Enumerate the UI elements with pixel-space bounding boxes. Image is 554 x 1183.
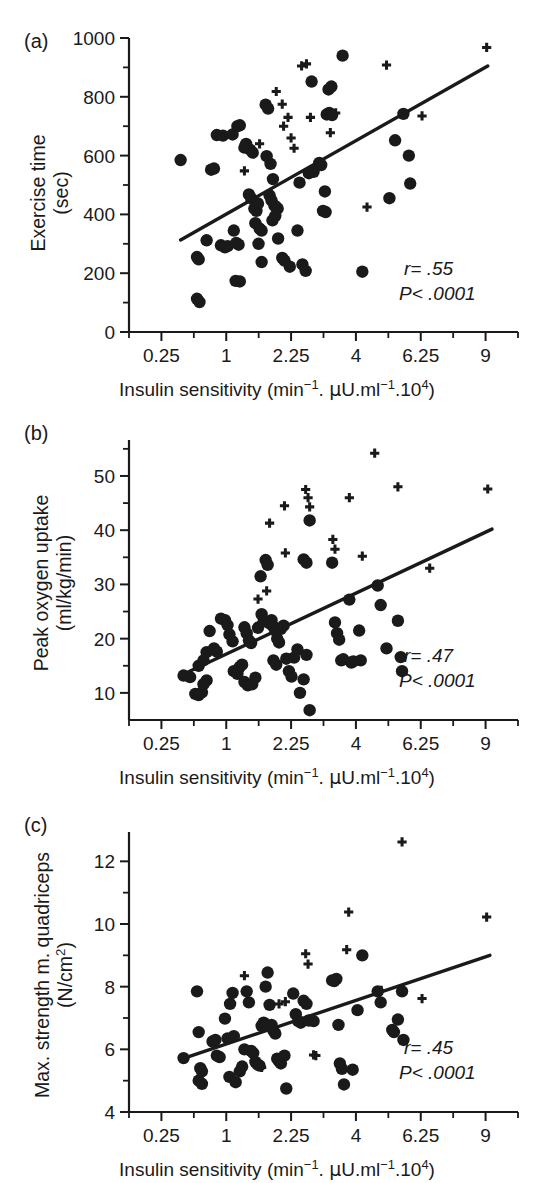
data-point-plus: [283, 113, 292, 122]
data-point-plus: [286, 133, 295, 142]
data-point-circle: [192, 253, 204, 265]
y-tick-label: 4: [104, 1102, 115, 1123]
data-point-circle: [272, 232, 284, 244]
data-point-plus: [305, 502, 314, 511]
data-point-circle: [351, 1004, 363, 1016]
series-plus-markers: [253, 449, 492, 604]
data-point-circle: [338, 1078, 350, 1090]
data-point-circle: [305, 75, 317, 87]
x-tick-label: 4: [351, 733, 362, 754]
x-tick-label: 1: [221, 733, 232, 754]
panel-c: (c) Max. strength m. quadriceps (N/cm2) …: [0, 792, 554, 1183]
panel-b-p-stat: P< .0001: [399, 670, 476, 692]
data-point-circle: [300, 998, 312, 1010]
panel-b-plot: 0.2512.2546.2591020304050: [0, 400, 554, 792]
data-point-plus: [265, 519, 274, 528]
y-tick-label: 40: [94, 520, 115, 541]
data-point-circle: [319, 185, 331, 197]
data-point-circle: [236, 1060, 248, 1072]
data-point-plus: [289, 144, 298, 153]
data-point-circle: [234, 275, 246, 287]
data-point-circle: [374, 599, 386, 611]
data-point-circle: [346, 1064, 358, 1076]
data-point-circle: [261, 966, 273, 978]
data-point-circle: [193, 296, 205, 308]
y-tick-label: 30: [94, 574, 115, 595]
series-circles: [177, 514, 408, 716]
panel-c-r-stat: r= .45: [404, 1037, 453, 1059]
data-point-plus: [303, 960, 312, 969]
data-point-circle: [247, 146, 259, 158]
data-point-plus: [262, 586, 271, 595]
data-point-plus: [483, 484, 492, 493]
data-point-circle: [336, 1063, 348, 1075]
panel-a-plot: 0.2512.2546.25902004006008001000: [0, 0, 554, 400]
x-tick-label: 6.25: [402, 1125, 439, 1146]
x-tick-label: 9: [480, 733, 491, 754]
data-point-circle: [228, 224, 240, 236]
data-point-circle: [397, 108, 409, 120]
data-point-circle: [371, 579, 383, 591]
y-tick-label: 200: [83, 263, 115, 284]
data-point-circle: [263, 999, 275, 1011]
panel-b: (b) Peak oxygen uptake (ml/kg/min) 0.251…: [0, 400, 554, 792]
x-tick-label: 6.25: [402, 733, 439, 754]
data-point-circle: [264, 158, 276, 170]
data-point-circle: [259, 980, 271, 992]
data-point-plus: [482, 913, 491, 922]
data-point-plus: [326, 128, 335, 137]
data-point-plus: [358, 552, 367, 561]
panel-c-p-stat: P< .0001: [399, 1062, 476, 1084]
data-point-circle: [240, 985, 252, 997]
y-tick-label: 8: [104, 977, 115, 998]
data-point-circle: [287, 987, 299, 999]
data-point-circle: [325, 80, 337, 92]
y-tick-label: 600: [83, 146, 115, 167]
data-point-circle: [392, 1013, 404, 1025]
data-point-circle: [356, 266, 368, 278]
data-point-circle: [177, 1052, 189, 1064]
data-point-circle: [211, 645, 223, 657]
data-point-circle: [299, 265, 311, 277]
data-point-circle: [329, 616, 341, 628]
data-point-circle: [192, 1026, 204, 1038]
y-tick-label: 20: [94, 629, 115, 650]
y-tick-label: 10: [94, 683, 115, 704]
panel-a-xlabel: Insulin sensitivity (min−1. μU.ml−1.104): [0, 378, 554, 401]
data-point-circle: [209, 1034, 221, 1046]
data-point-circle: [208, 162, 220, 174]
y-tick-label: 12: [94, 851, 115, 872]
data-point-plus: [306, 113, 315, 122]
data-point-plus: [482, 43, 491, 52]
data-point-circle: [333, 634, 345, 646]
data-point-circle: [253, 1059, 265, 1071]
x-tick-label: 0.25: [143, 345, 180, 366]
data-point-plus: [370, 449, 379, 458]
data-point-circle: [404, 177, 416, 189]
data-point-circle: [252, 197, 264, 209]
data-point-circle: [191, 985, 203, 997]
data-point-circle: [269, 1027, 281, 1039]
data-point-plus: [342, 945, 351, 954]
data-point-circle: [255, 224, 267, 236]
panel-a-p-stat: P< .0001: [399, 283, 476, 305]
data-point-circle: [315, 159, 327, 171]
x-tick-label: 9: [480, 1125, 491, 1146]
y-tick-label: 50: [94, 466, 115, 487]
data-point-plus: [417, 111, 426, 120]
data-point-circle: [262, 102, 274, 114]
data-point-circle: [254, 570, 266, 582]
panel-a: (a) Exercise time (sec) 0.2512.2546.2590…: [0, 0, 554, 400]
data-point-circle: [389, 134, 401, 146]
series-circles: [177, 949, 409, 1095]
data-point-circle: [266, 214, 278, 226]
data-point-circle: [326, 557, 338, 569]
data-point-plus: [345, 493, 354, 502]
data-point-plus: [425, 564, 434, 573]
y-tick-label: 10: [94, 914, 115, 935]
data-point-circle: [374, 996, 386, 1008]
x-tick-label: 6.25: [402, 345, 439, 366]
panel-b-xlabel: Insulin sensitivity (min−1. μU.ml−1.104): [0, 766, 554, 789]
data-point-circle: [234, 119, 246, 131]
data-point-circle: [200, 674, 212, 686]
